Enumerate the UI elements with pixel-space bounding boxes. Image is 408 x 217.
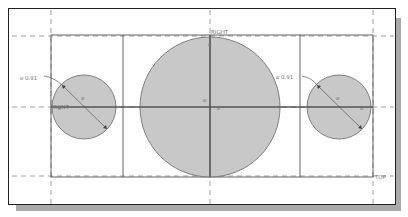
- datum-label-top: TOP: [374, 174, 387, 180]
- datum-label-right: RIGHT: [211, 29, 229, 35]
- dim-label-left[interactable]: ⌀ 0.91: [20, 75, 37, 81]
- leader-right: [302, 76, 317, 85]
- sketch-canvas[interactable]: ⌀ 0.91 ⌀ 0.91 RIGHT TOP FRONT ⌀ ⌀ ⌀ ⌀ ⌀ …: [0, 0, 408, 217]
- leader-left: [44, 76, 62, 85]
- dim-label-right[interactable]: ⌀ 0.91: [276, 74, 293, 80]
